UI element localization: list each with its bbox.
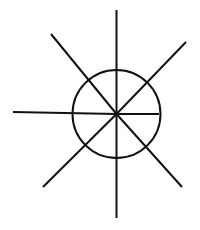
radial-diagram — [0, 0, 200, 230]
ray-down-left-line — [43, 114, 117, 187]
diagram-canvas — [0, 0, 200, 230]
ray-up-left-line — [51, 34, 117, 114]
ray-up-right-line — [117, 42, 187, 114]
ray-down-right-line — [117, 114, 183, 187]
ray-left-line — [13, 112, 117, 114]
